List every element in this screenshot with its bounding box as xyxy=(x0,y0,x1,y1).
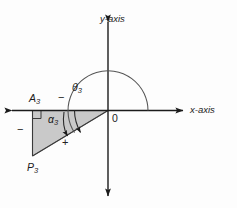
point-label-a3: A3 xyxy=(29,93,40,106)
sign-minus-horizontal: − xyxy=(58,92,64,103)
sign-minus-vertical: − xyxy=(17,124,23,135)
figure-canvas: y-axis x-axis 0 A3 P3 θ3 α3 − − + xyxy=(0,0,237,208)
angle-label-theta3: θ3 xyxy=(72,82,82,95)
y-axis-label: y-axis xyxy=(100,14,125,24)
point-label-p3: P3 xyxy=(27,162,38,175)
sign-plus-hypotenuse: + xyxy=(62,137,68,148)
x-axis-label: x-axis xyxy=(190,105,215,115)
origin-label: 0 xyxy=(112,113,118,124)
angle-label-alpha3: α3 xyxy=(48,114,58,127)
